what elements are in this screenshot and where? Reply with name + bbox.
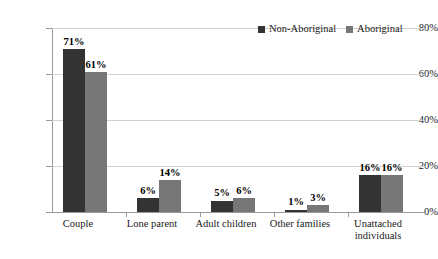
- x-tick-sep-2: [200, 212, 201, 217]
- bar-couple-non-aboriginal: [63, 49, 85, 212]
- legend-item-non-aboriginal: Non-Aboriginal: [258, 24, 336, 35]
- x-tick-label-lone-parent: Lone parent: [115, 218, 189, 230]
- legend-label-non-aboriginal: Non-Aboriginal: [269, 24, 336, 35]
- x-tick-label-couple: Couple: [41, 218, 115, 230]
- bar-label-lone-parent-aboriginal: 14%: [155, 168, 185, 179]
- x-tick-sep-4: [348, 212, 349, 217]
- bar-group-unattached-individuals: 16% 16%: [359, 28, 403, 212]
- bar-label-unattached-aboriginal: 16%: [377, 163, 407, 174]
- legend-swatch-icon-non-aboriginal: [258, 26, 265, 33]
- bar-label-adult-children-aboriginal: 6%: [229, 186, 259, 197]
- bar-label-couple-aboriginal: 61%: [81, 60, 111, 71]
- bar-group-adult-children: 5% 6%: [211, 28, 255, 212]
- bar-group-lone-parent: 6% 14%: [137, 28, 181, 212]
- chart-legend: Non-Aboriginal Aboriginal: [258, 24, 403, 35]
- plot-area: 71% 61% 6% 14% 5% 6% 1% 3% 16%: [52, 28, 425, 212]
- bar-adult-children-non-aboriginal: [211, 201, 233, 213]
- bar-couple-aboriginal: [85, 72, 107, 212]
- x-tick-label-adult-children: Adult children: [189, 218, 263, 230]
- x-tick-sep-3: [274, 212, 275, 217]
- bar-lone-parent-non-aboriginal: [137, 198, 159, 212]
- x-tick-label-other-families: Other families: [263, 218, 337, 230]
- bar-label-couple-non-aboriginal: 71%: [59, 37, 89, 48]
- bar-unattached-non-aboriginal: [359, 175, 381, 212]
- bar-label-other-families-aboriginal: 3%: [303, 193, 333, 204]
- bar-group-couple: 71% 61%: [63, 28, 107, 212]
- bar-label-lone-parent-non-aboriginal: 6%: [133, 186, 163, 197]
- legend-swatch-icon-aboriginal: [346, 26, 353, 33]
- bar-group-other-families: 1% 3%: [285, 28, 329, 212]
- x-tick-sep-1: [126, 212, 127, 217]
- bar-chart: 80% 60% 40% 20% 0% 71% 61% 6% 14%: [0, 0, 438, 259]
- legend-item-aboriginal: Aboriginal: [346, 24, 403, 35]
- bar-adult-children-aboriginal: [233, 198, 255, 212]
- bar-unattached-aboriginal: [381, 175, 403, 212]
- x-tick-label-unattached-individuals: Unattached individuals: [337, 218, 419, 242]
- bar-other-families-non-aboriginal: [285, 210, 307, 212]
- legend-label-aboriginal: Aboriginal: [357, 24, 403, 35]
- x-axis-baseline: [52, 212, 425, 213]
